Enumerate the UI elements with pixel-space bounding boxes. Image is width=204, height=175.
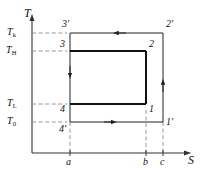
- entropy-tick-label-a: a: [66, 157, 71, 167]
- t-axis-label: T: [24, 7, 31, 19]
- temp-label-TH: TH: [6, 45, 16, 55]
- state-label-1: 1: [149, 104, 154, 114]
- temp-sub-TL: L: [13, 102, 17, 109]
- s-axis-label: S: [188, 154, 194, 166]
- ts-diagram-figure: T S Tk TH TL T0 1 2 3 4 1' 2' 3' 4' a b …: [0, 0, 204, 175]
- entropy-tick-label-b: b: [143, 157, 148, 167]
- state-label-2: 2: [149, 39, 154, 49]
- axis-group: [32, 17, 188, 153]
- temp-sub-Tk: k: [13, 31, 16, 38]
- state-label-4: 4: [60, 104, 65, 114]
- state-label-2-prime: 2': [166, 19, 173, 29]
- state-label-3: 3: [60, 39, 65, 49]
- temp-label-TL: TL: [7, 98, 17, 108]
- entropy-guide-lines: [70, 110, 163, 153]
- temp-sub-TH: H: [12, 49, 17, 56]
- state-label-4-prime: 4': [59, 124, 66, 134]
- temp-label-T0: T0: [7, 116, 16, 126]
- state-label-1-prime: 1': [166, 117, 173, 127]
- temp-sub-T0: 0: [13, 120, 16, 127]
- entropy-tick-label-c: c: [160, 157, 164, 167]
- inner-cycle-path: [70, 51, 146, 104]
- temp-base-TL: T: [7, 97, 13, 108]
- temp-base-Tk: T: [7, 26, 13, 37]
- temp-base-T0: T: [7, 115, 13, 126]
- temp-base-TH: T: [6, 44, 12, 55]
- temp-label-Tk: Tk: [7, 27, 16, 37]
- ts-diagram-canvas: [0, 0, 204, 175]
- state-label-3-prime: 3': [62, 19, 69, 29]
